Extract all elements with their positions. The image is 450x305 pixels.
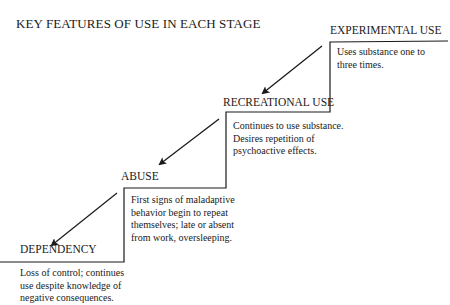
stage-description-dependency: Loss of control; continues use despite k… — [20, 267, 132, 305]
stage-label-recreational: RECREATIONAL USE — [223, 96, 334, 108]
stage-description-recreational: Continues to use substance. Desires repe… — [233, 120, 363, 158]
stage-label-experimental: EXPERIMENTAL USE — [330, 24, 441, 36]
arrow-experimental-to-recreational — [263, 46, 322, 93]
stage-description-abuse: First signs of maladaptive behavior begi… — [131, 194, 249, 244]
stage-label-dependency: DEPENDENCY — [20, 243, 97, 255]
arrow-recreational-to-abuse — [160, 119, 219, 164]
stage-description-experimental: Uses substance one to three times. — [337, 46, 442, 71]
stage-label-abuse: ABUSE — [121, 170, 159, 182]
arrow-abuse-to-dependency — [52, 193, 117, 245]
